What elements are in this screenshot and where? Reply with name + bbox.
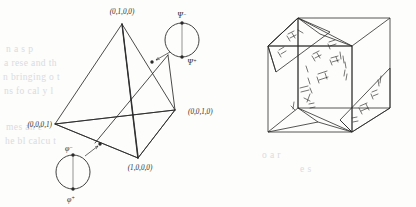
vertex-label-top: (0,1,0,0) — [110, 8, 135, 16]
cube-bottom-slab-edge — [298, 108, 318, 122]
psi-edge-marker — [150, 60, 153, 63]
tetrahedron — [55, 24, 175, 158]
cube-bottom-slab — [268, 122, 352, 132]
cube-plane-upper-left — [268, 18, 330, 72]
tetra-interior-upper — [168, 55, 175, 110]
phi-plus-label: φ+ — [67, 195, 75, 205]
tetra-edge-right-bottom — [138, 110, 175, 158]
cube-front-face — [268, 46, 352, 132]
phi-pointer-arrow — [85, 146, 98, 156]
tetra-edge-base-front — [55, 110, 175, 124]
vertex-label-right: (0,0,1,0) — [188, 108, 213, 116]
phi-minus-label: φ− — [65, 144, 73, 154]
vertex-label-left: (0,0,0,1) — [27, 121, 52, 129]
tetra-edge-top-bottom — [122, 24, 138, 158]
psi-minus-label: Ψ− — [177, 11, 187, 21]
psi-circle-group: Ψ− Ψ+ — [150, 11, 199, 68]
tetra-interior-diagonal — [95, 55, 168, 143]
psi-plus-label: Ψ+ — [187, 58, 197, 68]
tetra-face-left — [55, 24, 138, 158]
cube-plane-ul-edge — [268, 46, 276, 72]
phi-edge-marker — [98, 142, 101, 145]
cube-plane-lower-right — [340, 68, 390, 132]
phi-circle-group: φ− φ+ — [56, 142, 102, 204]
vertex-label-bottom: (1,0,0,0) — [128, 164, 153, 172]
cube-edge-bl — [268, 108, 298, 132]
cube-edge-tr — [352, 18, 390, 46]
cube-with-planes — [268, 18, 390, 132]
figure-canvas: (0,1,0,0) (0,0,0,1) (0,0,1,0) (1,0,0,0) … — [0, 0, 416, 207]
